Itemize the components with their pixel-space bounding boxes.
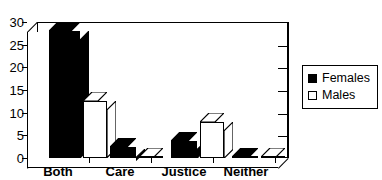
bar-front-face	[200, 122, 224, 158]
bar-top-shape	[110, 138, 136, 147]
x-tick-mark	[275, 158, 276, 163]
plot-area	[27, 22, 278, 158]
bar-males-justice	[200, 122, 224, 158]
legend-item-males: Males	[308, 87, 373, 104]
bar-females-care	[110, 147, 136, 158]
bar-front-face	[83, 101, 107, 158]
x-tick-label-justice: Justice	[162, 165, 207, 178]
legend-label-females: Females	[322, 72, 370, 85]
legend-label-males: Males	[322, 89, 355, 102]
x-tick-mark	[89, 158, 90, 163]
bar-top-shape	[200, 113, 224, 122]
bar-males-both	[83, 101, 107, 158]
bar-top-shape	[171, 132, 197, 141]
bar-top-shape	[49, 22, 80, 31]
bar-top-face	[200, 113, 224, 122]
x-tick-mark	[151, 158, 152, 163]
bar-front-face	[49, 31, 80, 158]
x-tick-label-both: Both	[43, 165, 73, 178]
x-tick-label-care: Care	[106, 165, 135, 178]
legend-swatch-filled-icon	[308, 74, 317, 83]
legend-item-females: Females	[308, 70, 373, 87]
bar-males-neither	[261, 157, 285, 158]
bar-top-face	[110, 138, 136, 147]
x-tick-mark	[213, 158, 214, 163]
x-tick-mark	[27, 158, 28, 163]
bar-top-face	[49, 22, 80, 31]
bar-chart: 30 25 20 15 10 5 0	[0, 0, 382, 180]
bar-top-shape	[83, 92, 107, 101]
bar-front-face	[232, 156, 258, 158]
bar-top-face	[83, 92, 107, 101]
chart-right-wall-edge	[288, 22, 289, 158]
bar-front-face	[171, 141, 197, 158]
bar-front-face	[261, 156, 285, 158]
bar-females-both	[49, 31, 80, 158]
bar-females-neither	[232, 157, 258, 158]
floor-depth-edge	[278, 158, 289, 169]
bar-front-face	[110, 147, 136, 158]
bar-top-face	[171, 132, 197, 141]
legend-swatch-open-icon	[308, 91, 317, 100]
bar-females-justice	[171, 141, 197, 158]
y-axis: 30 25 20 15 10 5 0	[0, 0, 24, 180]
x-tick-label-neither: Neither	[224, 165, 269, 178]
legend: Females Males	[302, 65, 378, 109]
